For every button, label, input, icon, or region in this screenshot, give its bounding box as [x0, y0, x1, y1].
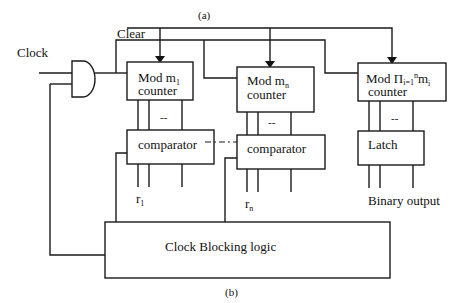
- svg-text:counter: counter: [368, 84, 408, 99]
- mod-m1-counter: Mod m1 counter: [127, 62, 193, 100]
- svg-text:Latch: Latch: [368, 137, 398, 152]
- clock-label: Clock: [17, 45, 49, 60]
- rn-label: rn: [245, 196, 253, 213]
- comparator-n-outputs: [247, 169, 291, 192]
- latch-outputs: [369, 165, 413, 188]
- bus-mn-to-comparator: --: [247, 112, 291, 135]
- svg-text:Clock Blocking logic: Clock Blocking logic: [165, 239, 276, 254]
- binary-output-label: Binary output: [368, 193, 440, 208]
- mod-product-counter: Mod Πi=1nmi counter: [358, 63, 446, 101]
- mod-mn-counter: Mod mn counter: [237, 67, 314, 112]
- caption-a: (a): [198, 9, 211, 22]
- blocking-to-comparator-1: [116, 153, 127, 222]
- comparator-1-outputs: [138, 164, 182, 187]
- svg-text:--: --: [391, 112, 399, 124]
- svg-text:counter: counter: [247, 87, 287, 102]
- comparator-1: comparator: [127, 130, 214, 164]
- svg-text:--: --: [160, 111, 168, 123]
- comparator-n: comparator: [237, 135, 325, 169]
- svg-text:counter: counter: [138, 83, 178, 98]
- svg-text:comparator: comparator: [247, 141, 307, 156]
- bus-product-to-latch: --: [369, 101, 413, 131]
- blocking-to-comparator-n: [225, 158, 237, 222]
- caption-b: (b): [225, 286, 238, 299]
- bus-m1-to-comparator: --: [138, 100, 182, 130]
- svg-text:comparator: comparator: [138, 137, 198, 152]
- latch: Latch: [358, 131, 424, 165]
- counter-diagram: (a) Clear Clock Mod m1 counter -- compar…: [0, 0, 465, 303]
- r1-label: r1: [136, 191, 144, 208]
- and-gate-icon: [72, 61, 95, 97]
- svg-text:--: --: [268, 116, 276, 128]
- clock-blocking-logic: Clock Blocking logic: [105, 222, 390, 278]
- feedback-line: [50, 84, 105, 255]
- clear-label: Clear: [117, 26, 146, 41]
